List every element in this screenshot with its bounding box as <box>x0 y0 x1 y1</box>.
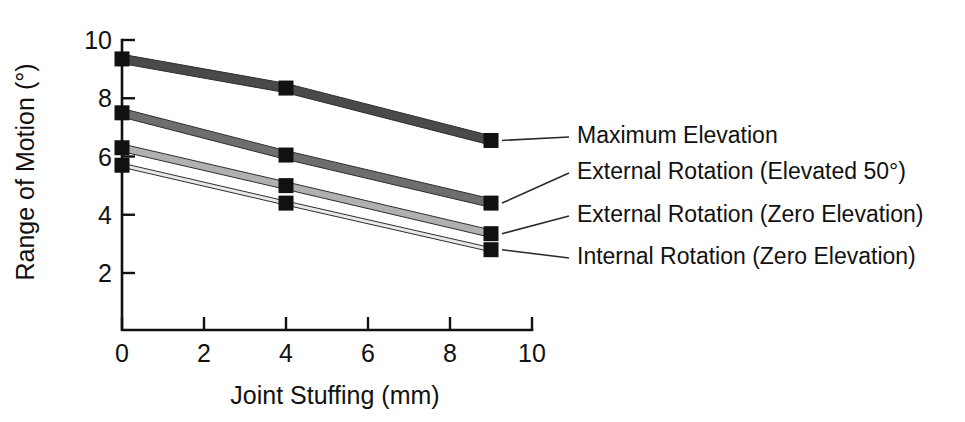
y-axis-tick-labels: 246810 <box>84 26 112 287</box>
data-point-marker <box>484 196 499 211</box>
data-point-marker <box>279 148 294 163</box>
legend-label: External Rotation (Zero Elevation) <box>577 201 923 227</box>
data-point-marker <box>484 133 499 148</box>
legend-label: Maximum Elevation <box>577 122 778 148</box>
axis-lines <box>122 40 532 330</box>
legend-group: Maximum ElevationExternal Rotation (Elev… <box>502 122 923 269</box>
y-tick-label: 4 <box>98 201 112 229</box>
y-axis-title: Range of Motion (°) <box>11 63 39 280</box>
series-markers-group <box>115 51 499 257</box>
x-axis-tick-labels: 0246810 <box>115 339 546 367</box>
x-tick-label: 10 <box>518 339 546 367</box>
y-tick-label: 2 <box>98 259 112 287</box>
line-chart: 246810 0246810 Joint Stuffing (mm) Range… <box>0 0 965 422</box>
legend-label: External Rotation (Elevated 50°) <box>577 158 906 184</box>
series-bands-group <box>122 54 491 251</box>
data-point-marker <box>279 81 294 96</box>
x-axis-ticks <box>122 317 532 330</box>
y-tick-label: 8 <box>98 84 112 112</box>
data-point-marker <box>279 178 294 193</box>
x-tick-label: 0 <box>115 339 129 367</box>
x-tick-label: 4 <box>279 339 293 367</box>
data-point-marker <box>279 196 294 211</box>
data-point-marker <box>484 242 499 257</box>
y-tick-label: 10 <box>84 26 112 54</box>
x-tick-label: 2 <box>197 339 211 367</box>
leader-line <box>502 216 569 234</box>
axis-group <box>122 40 532 330</box>
leader-line <box>502 137 569 140</box>
figure-container: 246810 0246810 Joint Stuffing (mm) Range… <box>0 0 965 422</box>
y-tick-label: 6 <box>98 143 112 171</box>
x-axis-title: Joint Stuffing (mm) <box>230 381 439 409</box>
legend-label: Internal Rotation (Zero Elevation) <box>577 243 916 269</box>
data-point-marker <box>484 226 499 241</box>
leader-line <box>502 250 569 258</box>
x-tick-label: 6 <box>361 339 375 367</box>
leader-line <box>502 173 569 203</box>
y-axis-ticks <box>122 40 135 273</box>
series-band <box>122 163 491 252</box>
x-tick-label: 8 <box>443 339 457 367</box>
